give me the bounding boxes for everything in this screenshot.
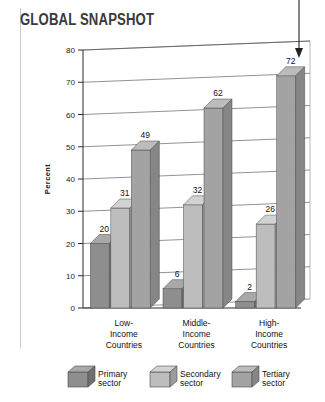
bar-value-label: 32 (193, 185, 203, 195)
gridline (83, 73, 310, 82)
y-tick-label: 50 (66, 143, 75, 152)
bar-value-label: 20 (100, 224, 110, 234)
x-axis-category-label: Income (183, 329, 211, 339)
bar-side-face (223, 99, 232, 308)
legend-swatch-front (232, 372, 252, 387)
bar-front-face (277, 76, 296, 308)
bar-value-label: 49 (141, 130, 151, 140)
y-tick-label: 10 (66, 272, 75, 281)
y-tick-label: 40 (66, 175, 75, 184)
y-tick-label: 80 (66, 46, 75, 55)
bar-value-label: 6 (175, 269, 180, 279)
bar-front-face (111, 208, 130, 308)
x-axis-category-label: Countries (178, 340, 214, 350)
bar[interactable] (131, 141, 159, 308)
legend-label: sector (262, 378, 285, 388)
bar-front-face (256, 224, 275, 308)
bar-front-face (90, 244, 109, 309)
y-tick-label: 30 (66, 207, 75, 216)
legend-item[interactable]: Primarysector (68, 366, 128, 388)
bar-front-face (163, 289, 182, 308)
legend-swatch-front (68, 372, 88, 387)
bar-value-label: 62 (213, 88, 223, 98)
annotation-arrow (295, 0, 303, 58)
legend-swatch-front (150, 372, 170, 387)
x-axis-category-label: Income (255, 329, 283, 339)
legend-label: sector (98, 378, 121, 388)
bar-side-face (150, 141, 159, 308)
chart-figure: 01020304050607080Percent2031496326222672… (0, 0, 325, 402)
x-axis-category-label: Middle- (183, 318, 211, 328)
bar-chart-svg: 01020304050607080Percent2031496326222672… (0, 0, 325, 402)
bar-group (236, 67, 305, 308)
bar-value-label: 2 (247, 282, 252, 292)
plot-frame-top (83, 41, 310, 50)
y-axis-title: Percent (43, 164, 52, 194)
bar-front-face (184, 205, 203, 308)
y-tick-label: 70 (66, 78, 75, 87)
legend: PrimarysectorSecondarysectorTertiarysect… (68, 366, 291, 388)
bar-value-label: 72 (286, 56, 296, 66)
bar[interactable] (277, 67, 305, 308)
gridline (83, 138, 310, 147)
bar-front-face (131, 150, 150, 308)
legend-item[interactable]: Tertiarysector (232, 366, 291, 388)
x-axis-category-label: Income (110, 329, 138, 339)
legend-label: sector (180, 378, 203, 388)
chart-render-root: 01020304050607080Percent2031496326222672… (43, 0, 310, 388)
x-axis-category-label: Countries (251, 340, 287, 350)
bar-value-label: 31 (120, 188, 130, 198)
bar-value-label: 26 (265, 204, 275, 214)
annotation-arrow-head (295, 48, 303, 58)
bar-group (163, 99, 232, 308)
x-axis-category-label: Low- (115, 318, 134, 328)
legend-item[interactable]: Secondarysector (150, 366, 221, 388)
x-axis-labels: Low-IncomeCountriesMiddle-IncomeCountrie… (106, 318, 288, 350)
x-axis-category-label: High- (259, 318, 279, 328)
bar[interactable] (204, 99, 232, 308)
y-tick-label: 20 (66, 240, 75, 249)
bar-side-face (296, 67, 305, 308)
y-tick-label: 60 (66, 111, 75, 120)
bar-front-face (204, 108, 223, 308)
y-tick-label: 0 (71, 304, 76, 313)
gridline (83, 170, 310, 179)
bar-front-face (236, 302, 255, 308)
y-axis: 01020304050607080 (66, 46, 83, 313)
gridline (83, 106, 310, 115)
x-axis-category-label: Countries (106, 340, 142, 350)
